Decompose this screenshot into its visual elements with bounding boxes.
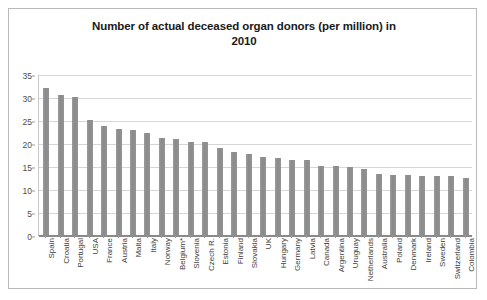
bar-latvia[interactable] bbox=[304, 160, 310, 235]
bar-finland[interactable] bbox=[231, 152, 237, 235]
bar-slot bbox=[169, 75, 183, 235]
x-tick-mark bbox=[89, 235, 90, 238]
x-tick-label-croatia: Croatia bbox=[63, 238, 70, 264]
x-tick-mark bbox=[320, 235, 321, 238]
bar-portugal[interactable] bbox=[72, 97, 78, 235]
bar-sweden[interactable] bbox=[434, 176, 440, 235]
bar-argentina[interactable] bbox=[333, 166, 339, 235]
bar-slot bbox=[155, 75, 169, 235]
x-tick-mark bbox=[103, 235, 104, 238]
y-tick-mark-25 bbox=[32, 121, 35, 122]
x-tick-label-netherlands: Netherlands bbox=[367, 238, 374, 281]
bar-slot bbox=[285, 75, 299, 235]
bar-slot bbox=[270, 75, 284, 235]
bar-uk[interactable] bbox=[260, 157, 266, 235]
bar-denmark[interactable] bbox=[405, 175, 411, 235]
bar-slot bbox=[126, 75, 140, 235]
x-tick-label-canada: Canada bbox=[323, 238, 330, 266]
bar-slot bbox=[459, 75, 473, 235]
bar-slot bbox=[401, 75, 415, 235]
bar-slot bbox=[242, 75, 256, 235]
y-tick-label-35: 35 bbox=[23, 71, 32, 81]
x-tick-label-australia: Australia bbox=[381, 238, 388, 269]
x-tick-mark bbox=[233, 235, 234, 238]
bar-france[interactable] bbox=[101, 126, 107, 235]
x-tick-mark bbox=[450, 235, 451, 238]
bar-slot bbox=[198, 75, 212, 235]
bar-germany[interactable] bbox=[289, 160, 295, 235]
x-tick-mark bbox=[392, 235, 393, 238]
bar-netherlands[interactable] bbox=[361, 169, 367, 235]
y-tick-label-30: 30 bbox=[23, 94, 32, 104]
chart-title-line-2: 2010 bbox=[49, 34, 439, 49]
bar-slot bbox=[256, 75, 270, 235]
x-tick-label-switzerland: Switzerland bbox=[454, 238, 461, 279]
x-tick-mark bbox=[349, 235, 350, 238]
y-tick-mark-0 bbox=[32, 236, 35, 237]
x-tick-mark bbox=[132, 235, 133, 238]
bar-hungary[interactable] bbox=[275, 158, 281, 235]
bar-austria[interactable] bbox=[116, 129, 122, 235]
bar-slot bbox=[314, 75, 328, 235]
x-tick-label-portugal: Portugal bbox=[77, 238, 84, 268]
x-tick-label-spain: Spain bbox=[48, 238, 55, 258]
bar-slovenia[interactable] bbox=[188, 142, 194, 235]
bar-estonia[interactable] bbox=[217, 148, 223, 235]
x-tick-mark bbox=[147, 235, 148, 238]
x-tick-label-norway: Norway bbox=[164, 238, 171, 265]
x-tick-label-denmark: Denmark bbox=[410, 238, 417, 270]
y-axis: 05101520253035 bbox=[9, 69, 35, 244]
bar-canada[interactable] bbox=[318, 166, 324, 235]
bar-series bbox=[39, 75, 472, 235]
bar-uruguay[interactable] bbox=[347, 167, 353, 235]
x-tick-mark bbox=[277, 235, 278, 238]
x-tick-label-uk: UK bbox=[265, 238, 272, 249]
bar-switzerland[interactable] bbox=[448, 176, 454, 235]
x-tick-mark bbox=[421, 235, 422, 238]
x-tick-mark bbox=[74, 235, 75, 238]
x-tick-label-usa: USA bbox=[92, 238, 99, 254]
x-tick-mark bbox=[378, 235, 379, 238]
x-tick-mark bbox=[436, 235, 437, 238]
bar-colombia[interactable] bbox=[463, 178, 469, 235]
bar-slot bbox=[415, 75, 429, 235]
bar-slot bbox=[430, 75, 444, 235]
y-tick-mark-30 bbox=[32, 98, 35, 99]
chart-title: Number of actual deceased organ donors (… bbox=[49, 19, 439, 49]
bar-spain[interactable] bbox=[43, 88, 49, 235]
bar-croatia[interactable] bbox=[58, 95, 64, 235]
x-tick-mark bbox=[190, 235, 191, 238]
x-tick-label-malta: Malta bbox=[135, 238, 142, 258]
x-tick-label-argentina: Argentina bbox=[338, 238, 345, 272]
bar-slovakia[interactable] bbox=[246, 154, 252, 235]
bar-poland[interactable] bbox=[390, 175, 396, 235]
x-tick-mark bbox=[335, 235, 336, 238]
bar-slot bbox=[227, 75, 241, 235]
bar-slot bbox=[444, 75, 458, 235]
bar-usa[interactable] bbox=[87, 120, 93, 235]
bar-slot bbox=[111, 75, 125, 235]
x-tick-label-latvia: Latvia bbox=[309, 238, 316, 259]
x-tick-mark bbox=[306, 235, 307, 238]
bar-ireland[interactable] bbox=[419, 176, 425, 235]
x-tick-mark bbox=[465, 235, 466, 238]
bar-slot bbox=[97, 75, 111, 235]
x-tick-label-italy: Italy bbox=[150, 238, 157, 253]
bar-malta[interactable] bbox=[130, 130, 136, 235]
bar-slot bbox=[299, 75, 313, 235]
bar-norway[interactable] bbox=[159, 138, 165, 235]
y-tick-mark-35 bbox=[32, 75, 35, 76]
bar-slot bbox=[343, 75, 357, 235]
bar-australia[interactable] bbox=[376, 174, 382, 235]
bar-belgium[interactable] bbox=[173, 139, 179, 235]
bar-slot bbox=[82, 75, 96, 235]
x-tick-mark bbox=[204, 235, 205, 238]
bar-italy[interactable] bbox=[144, 133, 150, 235]
y-tick-label-15: 15 bbox=[23, 163, 32, 173]
x-tick-mark bbox=[60, 235, 61, 238]
x-tick-mark bbox=[364, 235, 365, 238]
x-tick-mark bbox=[161, 235, 162, 238]
y-tick-mark-5 bbox=[32, 213, 35, 214]
bar-czech-r[interactable] bbox=[202, 142, 208, 235]
y-tick-mark-20 bbox=[32, 144, 35, 145]
